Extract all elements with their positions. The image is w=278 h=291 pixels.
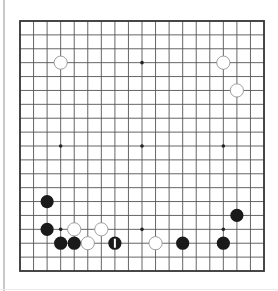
black-stone [108, 237, 121, 250]
go-board[interactable] [0, 0, 278, 291]
black-stone [54, 237, 67, 250]
black-stone [217, 237, 230, 250]
white-stone [217, 56, 230, 69]
white-stone [81, 237, 94, 250]
star-point [140, 61, 144, 65]
star-point [222, 228, 226, 232]
go-board-canvas[interactable] [0, 0, 278, 291]
star-point [59, 144, 63, 148]
white-stone [230, 84, 243, 97]
black-stone-icon [68, 237, 81, 250]
star-point [222, 144, 226, 148]
black-stone-icon [217, 237, 230, 250]
black-stone [41, 223, 54, 236]
white-stone [95, 223, 108, 236]
white-stone [68, 223, 81, 236]
star-point [140, 144, 144, 148]
black-stone-icon [41, 195, 54, 208]
black-stone-icon [54, 237, 67, 250]
black-stone-icon [176, 237, 189, 250]
black-stone [68, 237, 81, 250]
white-stone-icon [81, 237, 94, 250]
black-stone [176, 237, 189, 250]
black-stone-icon [41, 223, 54, 236]
white-stone-icon [54, 56, 67, 69]
white-stone-icon [95, 223, 108, 236]
last-move-marker-icon [114, 239, 116, 248]
white-stone-icon [149, 237, 162, 250]
black-stone-icon [230, 209, 243, 222]
star-point [59, 228, 63, 232]
star-point [140, 228, 144, 232]
white-stone-icon [217, 56, 230, 69]
white-stone-icon [230, 84, 243, 97]
black-stone [230, 209, 243, 222]
white-stone [54, 56, 67, 69]
black-stone [41, 195, 54, 208]
white-stone [149, 237, 162, 250]
white-stone-icon [68, 223, 81, 236]
